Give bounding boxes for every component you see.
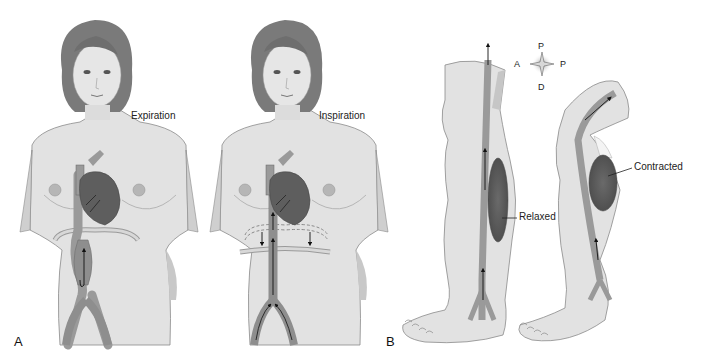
- expiration-label: Expiration: [131, 110, 175, 121]
- compass-left-label: A: [514, 59, 520, 69]
- nipple-left: [239, 184, 251, 196]
- face: [73, 43, 121, 107]
- compass-right-label: P: [560, 59, 566, 69]
- calf-muscle-contracted: [589, 155, 617, 211]
- compass-top-label: P: [538, 41, 544, 51]
- panel-b-letter: B: [386, 334, 395, 349]
- inspiration-figure: [210, 20, 388, 345]
- face: [263, 43, 311, 107]
- compass-bottom-label: D: [538, 82, 545, 92]
- calf-muscle-relaxed: [488, 158, 508, 242]
- contracted-label: Contracted: [634, 161, 683, 172]
- expiration-figure: [20, 20, 198, 345]
- nipple-right: [323, 184, 335, 196]
- torso: [220, 110, 378, 345]
- relaxed-leg: [403, 45, 517, 343]
- nipple-left: [49, 184, 61, 196]
- orientation-compass-icon: [530, 52, 554, 76]
- inspiration-label: Inspiration: [319, 110, 365, 121]
- relaxed-label: Relaxed: [519, 211, 556, 222]
- nipple-right: [133, 184, 145, 196]
- anatomy-illustration: [0, 0, 703, 354]
- panel-a-letter: A: [14, 334, 23, 349]
